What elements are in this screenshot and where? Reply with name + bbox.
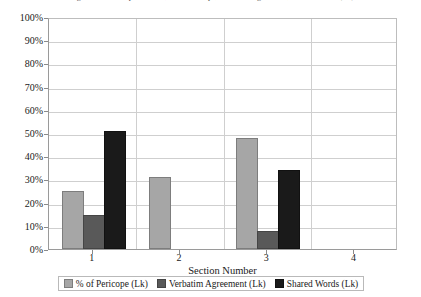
category-separator: [136, 19, 137, 249]
bar: [104, 131, 126, 249]
legend-label: Verbatim Agreement (Lk): [169, 279, 266, 289]
category-separator: [224, 19, 225, 249]
legend-label: Shared Words (Lk): [287, 279, 358, 289]
bar: [236, 138, 258, 249]
figure-container: Figure 5.9: Pericope Number, % of Perico…: [0, 0, 421, 297]
chart-legend: % of Pericope (Lk)Verbatim Agreement (Lk…: [58, 276, 364, 291]
bar: [83, 215, 105, 249]
x-axis-tick-label: 3: [246, 252, 286, 264]
bar: [278, 170, 300, 249]
gridline: [49, 205, 396, 206]
bar: [257, 231, 279, 249]
bar: [149, 177, 171, 249]
x-axis-tick-label: 2: [159, 252, 199, 264]
gridline: [49, 42, 396, 43]
y-axis-tick-marks: [0, 18, 48, 250]
gridline: [49, 89, 396, 90]
legend-swatch-icon: [64, 279, 73, 288]
legend-item[interactable]: Verbatim Agreement (Lk): [157, 279, 266, 289]
x-axis-tick-label: 1: [72, 252, 112, 264]
legend-label: % of Pericope (Lk): [76, 279, 148, 289]
gridline: [49, 181, 396, 182]
y-axis-tick-mark: [44, 250, 48, 251]
x-axis-tick-label: 4: [333, 252, 373, 264]
legend-swatch-icon: [157, 279, 166, 288]
bar: [62, 191, 84, 249]
legend-item[interactable]: % of Pericope (Lk): [64, 279, 148, 289]
legend-item[interactable]: Shared Words (Lk): [275, 279, 358, 289]
figure-caption: Figure 5.9: Pericope Number, % of Perico…: [22, 0, 402, 3]
legend-swatch-icon: [275, 279, 284, 288]
category-separator: [311, 19, 312, 249]
gridline: [49, 112, 396, 113]
gridline: [49, 65, 396, 66]
plot-area: [48, 18, 397, 250]
gridline: [49, 158, 396, 159]
gridline: [49, 135, 396, 136]
